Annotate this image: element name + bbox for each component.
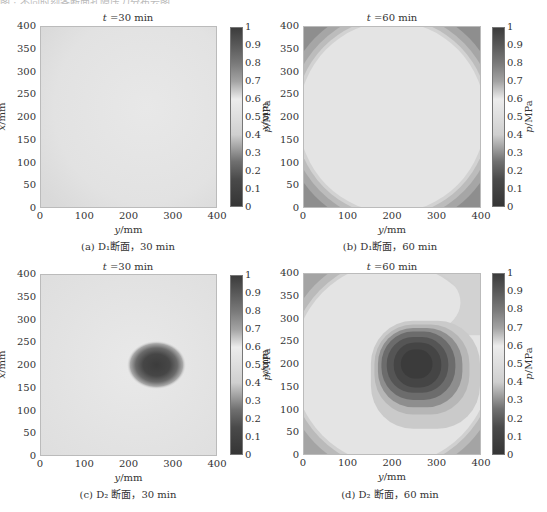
panel-a-x-tick: 300 [161, 211, 185, 221]
panel-d-y-tick: 100 [277, 405, 299, 415]
panel-d-colorbar-tick: 0.5 [507, 359, 523, 369]
panel-c-y-tick: 250 [14, 337, 36, 347]
panel-b-title: t =60 min [352, 12, 432, 23]
panel-b-colorbar-tick: 0.9 [507, 40, 523, 50]
panel-d-y-tick: 50 [277, 427, 299, 437]
panel-c-y-tick: 50 [14, 428, 36, 438]
panel-c-colorbar-tick: 0.8 [245, 306, 261, 316]
panel-a-x-label: y/mm [99, 224, 159, 235]
panel-b-x-tick: 0 [291, 211, 315, 221]
panel-b-colorbar-tick: 0 [507, 202, 513, 212]
panel-b-y-tick: 350 [277, 44, 299, 54]
panel-d-colorbar-tick: 0.2 [507, 414, 523, 424]
top-caption-fragment: 图 · 不同时刻各断面孔隙压力分布云图 [0, 0, 547, 4]
panel-c-y-tick: 350 [14, 292, 36, 302]
panel-b-heatmap [303, 26, 481, 208]
panel-d-y-label: x/mm [259, 350, 270, 378]
panel-c-y-tick: 150 [14, 383, 36, 393]
panel-a-colorbar-tick: 0.9 [245, 40, 261, 50]
panel-d-y-tick: 350 [277, 291, 299, 301]
panel-a-colorbar-tick: 0 [245, 202, 251, 212]
panel-a-y-tick: 100 [14, 158, 36, 168]
panel-c-y-tick: 400 [14, 269, 36, 279]
panel-c-y-tick: 200 [14, 360, 36, 370]
panel-a-title: t t =30 min=30 min [88, 12, 168, 23]
panel-b-colorbar-tick: 0.6 [507, 94, 523, 104]
panel-c-x-tick: 400 [205, 459, 229, 469]
panel-a-x-tick: 400 [205, 211, 229, 221]
panel-b-colorbar-tick: 0.8 [507, 58, 523, 68]
panel-c-heatmap [40, 274, 217, 456]
panel-b-y-tick: 200 [277, 112, 299, 122]
panel-a-y-tick: 400 [14, 21, 36, 31]
panel-d-colorbar-tick: 0.7 [507, 323, 523, 333]
panel-a-y-tick: 200 [14, 112, 36, 122]
panel-d-heatmap [303, 273, 481, 455]
panel-d-colorbar-tick: 0 [507, 450, 513, 460]
panel-b-colorbar-label: p/MPa [523, 100, 534, 132]
panel-d-colorbar-tick: 0.4 [507, 377, 523, 387]
panel-b-colorbar-tick: 0.1 [507, 184, 523, 194]
panel-a-colorbar-tick: 0.8 [245, 58, 261, 68]
panel-d-colorbar-tick: 0.6 [507, 341, 523, 351]
panel-d-colorbar-tick: 0.9 [507, 286, 523, 296]
panel-a-y-tick: 150 [14, 135, 36, 145]
panel-c-colorbar [230, 275, 243, 455]
panel-c-colorbar-tick: 0.3 [245, 396, 261, 406]
panel-a-heatmap [40, 26, 217, 208]
panel-c-x-tick: 100 [72, 459, 96, 469]
panel-d-y-tick: 400 [277, 268, 299, 278]
panel-c-title: t =30 min [88, 261, 168, 272]
panel-d-y-tick: 150 [277, 382, 299, 392]
panel-b-x-label: y/mm [362, 224, 422, 235]
panel-d-x-label: y/mm [362, 471, 422, 482]
panel-b-colorbar-tick: 0.7 [507, 76, 523, 86]
panel-a-y-tick: 50 [14, 180, 36, 190]
panel-b-colorbar [492, 27, 505, 207]
panel-d-y-tick: 300 [277, 314, 299, 324]
panel-a-y-label: x/mm [0, 103, 7, 131]
panel-a-x-tick: 100 [72, 211, 96, 221]
panel-d-colorbar-label: p/MPa [523, 347, 534, 379]
panel-a-y-tick: 350 [14, 44, 36, 54]
panel-a-colorbar [230, 27, 243, 207]
panel-b-y-tick: 300 [277, 67, 299, 77]
panel-b-colorbar-tick: 0.4 [507, 130, 523, 140]
panel-c-y-label: x/mm [0, 351, 7, 379]
panel-c-x-tick: 200 [117, 459, 141, 469]
panel-d-x-tick: 400 [469, 458, 493, 468]
panel-a-x-tick: 0 [28, 211, 52, 221]
panel-a-colorbar-tick: 0.4 [245, 130, 261, 140]
panel-b-y-tick: 250 [277, 89, 299, 99]
panel-c-x-tick: 300 [161, 459, 185, 469]
panel-a-x-tick: 200 [117, 211, 141, 221]
panel-d-caption: (d) D₂ 断面，60 min [290, 486, 490, 501]
panel-a-colorbar-tick: 1 [245, 22, 251, 32]
panel-c-colorbar-tick: 0.4 [245, 378, 261, 388]
panel-b-caption: (b) D₁断面，60 min [290, 238, 490, 253]
panel-b-colorbar-tick: 1 [507, 22, 513, 32]
panel-d-colorbar-tick: 0.1 [507, 432, 523, 442]
panel-d-x-tick: 200 [380, 458, 404, 468]
panel-a-y-tick: 250 [14, 89, 36, 99]
panel-c-y-tick: 100 [14, 406, 36, 416]
panel-c-colorbar-tick: 0 [245, 450, 251, 460]
panel-a-caption: (a) D₁断面，30 min [28, 238, 228, 253]
panel-a-colorbar-tick: 0.7 [245, 76, 261, 86]
panel-c-x-label: y/mm [99, 472, 159, 483]
panel-d-x-tick: 0 [291, 458, 315, 468]
panel-d-colorbar-tick: 1 [507, 268, 513, 278]
panel-a-colorbar-tick: 0.3 [245, 148, 261, 158]
panel-d-y-tick: 250 [277, 336, 299, 346]
panel-b-y-tick: 400 [277, 21, 299, 31]
panel-b-x-tick: 400 [469, 211, 493, 221]
panel-c-colorbar-tick: 0.7 [245, 324, 261, 334]
panel-c-caption: (c) D₂ 断面，30 min [28, 486, 228, 501]
panel-b-x-tick: 100 [336, 211, 360, 221]
panel-d-x-tick: 100 [336, 458, 360, 468]
panel-d-title: t =60 min [352, 261, 432, 272]
panel-c-colorbar-tick: 0.2 [245, 414, 261, 424]
panel-d-colorbar-tick: 0.8 [507, 304, 523, 314]
panel-d-x-tick: 300 [425, 458, 449, 468]
panel-d-y-tick: 200 [277, 359, 299, 369]
